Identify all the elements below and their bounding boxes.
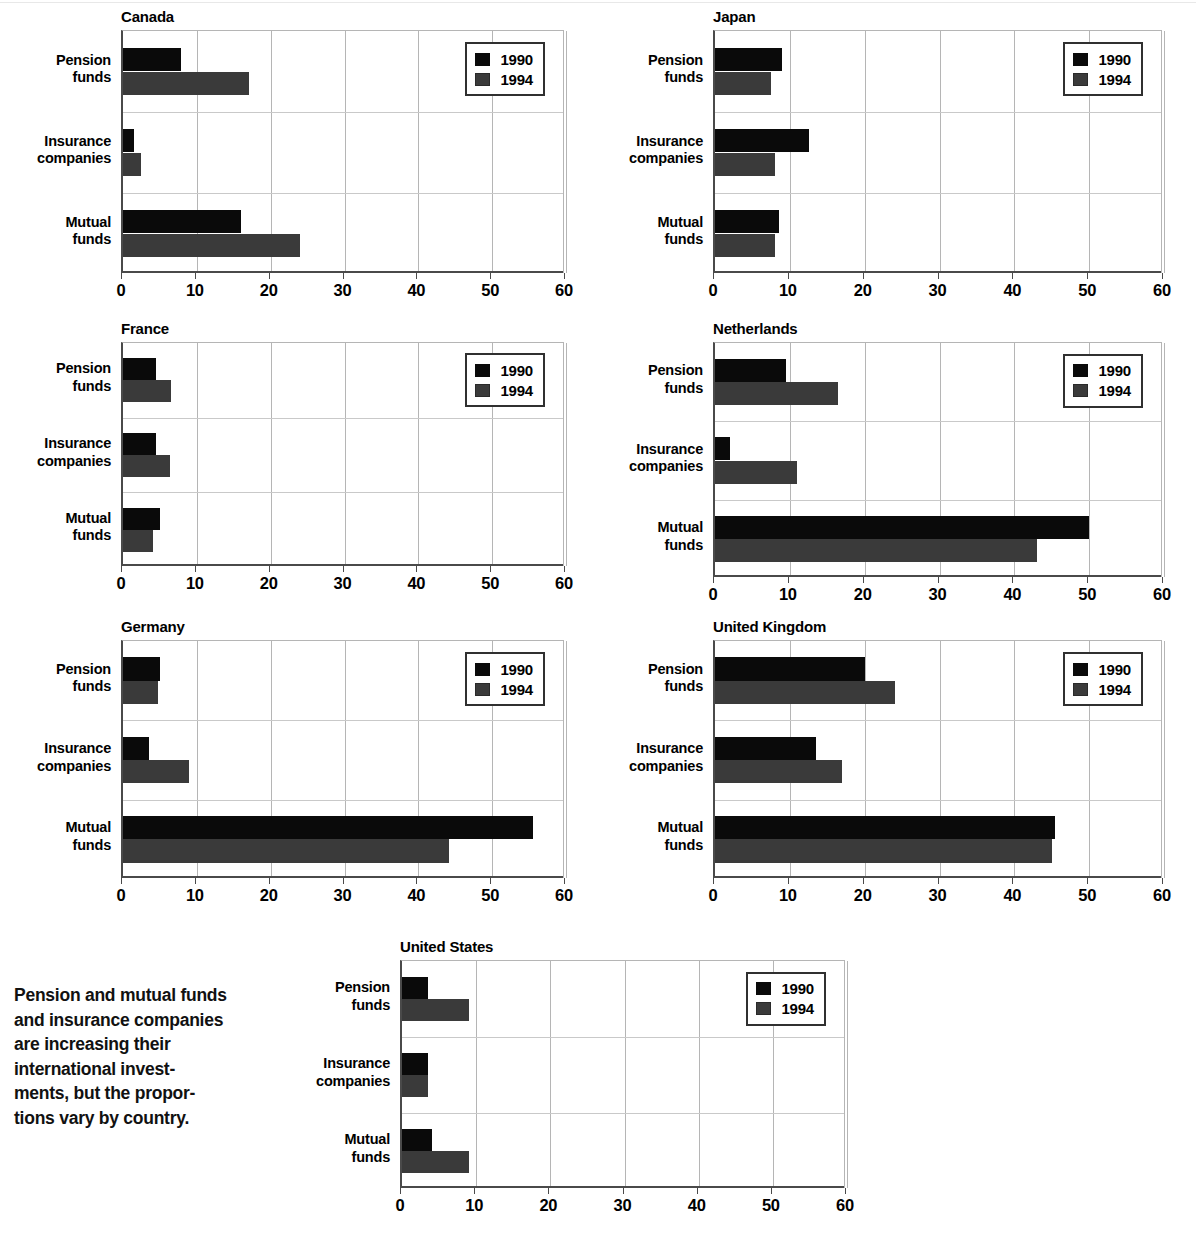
x-tick-mark [1087,878,1088,884]
y-axis-category-label: Insurancecompanies [0,133,111,168]
category-label-line: funds [272,997,390,1015]
legend-label: 1990 [1098,362,1131,379]
bar-1990-pension-funds [123,358,156,380]
bar-1990-mutual-funds [123,816,533,839]
x-tick-label: 20 [838,886,888,905]
x-tick-label: 20 [838,585,888,604]
bar-1994-pension-funds [715,72,771,96]
x-tick-mark [1162,878,1163,884]
x-tick-label: 50 [465,281,515,300]
panel-title: Canada [121,8,174,25]
x-tick-mark [938,577,939,583]
category-label-line: Pension [0,360,111,378]
legend-row: 1990 [475,659,533,679]
bar-1990-insurance-companies [123,129,134,153]
bar-1994-insurance-companies [715,153,775,177]
legend: 19901994 [1063,42,1143,96]
legend-row: 1994 [1073,69,1131,89]
bar-1990-insurance-companies [402,1053,428,1075]
y-axis-category-label: Insurancecompanies [585,441,703,476]
legend-row: 1994 [475,679,533,699]
x-tick-label: 0 [96,574,146,593]
gridline-horizontal [715,800,1161,801]
x-tick-mark [713,577,714,583]
y-axis-category-label: Insurancecompanies [0,435,111,470]
category-label-line: Pension [272,979,390,997]
x-tick-mark [713,273,714,279]
gridline-horizontal [123,418,563,419]
bar-1994-pension-funds [715,681,895,704]
x-tick-label: 20 [838,281,888,300]
y-axis-category-label: Mutualfunds [0,214,111,249]
x-tick-mark [863,273,864,279]
gridline-vertical [418,31,419,273]
bar-1994-pension-funds [123,72,249,96]
x-tick-label: 40 [987,886,1037,905]
gridline-horizontal [123,720,563,721]
legend-label: 1994 [781,1000,814,1017]
category-label-line: funds [272,1149,390,1167]
category-label-line: Mutual [0,214,111,232]
category-label-line: Mutual [585,519,703,537]
x-tick-label: 20 [244,281,294,300]
y-axis-category-label: Mutualfunds [585,214,703,249]
bar-1990-insurance-companies [123,433,156,455]
y-axis-category-label: Insurancecompanies [585,133,703,168]
legend-label: 1994 [1098,71,1131,88]
category-label-line: funds [585,69,703,87]
x-tick-label: 0 [96,281,146,300]
legend-label: 1990 [500,661,533,678]
bar-1990-insurance-companies [715,437,730,460]
legend-row: 1990 [475,49,533,69]
y-axis-category-label: Mutualfunds [272,1131,390,1166]
y-axis-category-label: Pensionfunds [585,52,703,87]
legend-swatch-1990 [756,982,771,995]
gridline-vertical [699,961,700,1188]
x-tick-mark [788,273,789,279]
gridline-vertical [625,961,626,1188]
bar-1990-pension-funds [715,657,865,680]
figure-caption: Pension and mutual funds and insurance c… [14,983,229,1130]
category-label-line: Pension [0,52,111,70]
legend-row: 1990 [756,979,814,999]
legend: 19901994 [1063,652,1143,706]
gridline-vertical [197,343,198,566]
bar-1990-insurance-companies [715,129,809,153]
x-tick-mark [343,566,344,572]
gridline-horizontal [715,112,1161,113]
gridline-vertical [865,31,866,273]
legend-label: 1990 [500,51,533,68]
category-label-line: funds [585,678,703,696]
bar-1990-mutual-funds [715,816,1055,839]
y-axis-category-label: Pensionfunds [0,52,111,87]
panel-title: France [121,320,169,337]
category-label-line: Insurance [0,133,111,151]
legend-row: 1990 [1073,361,1131,381]
gridline-horizontal [715,720,1161,721]
x-tick-label: 0 [688,886,738,905]
gridline-vertical [566,641,567,878]
legend-label: 1990 [781,980,814,997]
category-label-line: funds [0,678,111,696]
bar-1990-mutual-funds [402,1129,432,1151]
x-tick-label: 50 [746,1196,796,1215]
category-label-line: Insurance [272,1055,390,1073]
x-tick-mark [713,878,714,884]
category-label-line: companies [585,758,703,776]
bar-1994-mutual-funds [123,839,449,862]
legend: 19901994 [465,353,545,407]
gridline-horizontal [715,193,1161,194]
category-label-line: Insurance [585,133,703,151]
legend-swatch-1990 [1073,53,1088,66]
x-tick-label: 50 [465,574,515,593]
category-label-line: Insurance [0,740,111,758]
gridline-vertical [1014,31,1015,273]
category-label-line: companies [0,758,111,776]
x-tick-mark [269,566,270,572]
x-tick-label: 50 [1062,281,1112,300]
x-tick-label: 30 [913,886,963,905]
legend: 19901994 [465,652,545,706]
category-label-line: companies [0,453,111,471]
legend-row: 1990 [1073,49,1131,69]
category-label-line: Insurance [585,441,703,459]
